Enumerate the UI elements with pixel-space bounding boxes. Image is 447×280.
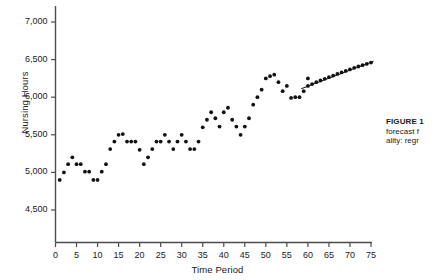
y-axis-tick-label: 4,500: [0, 204, 48, 214]
figure-container: 4,5005,0005,5006,0006,5007,000 051015202…: [0, 0, 447, 280]
chart-tick-marks: [51, 22, 371, 247]
figure-caption-title: FIGURE 1: [386, 117, 447, 127]
chart-plot-area: 4,5005,0005,5006,0006,5007,000 051015202…: [0, 0, 380, 280]
y-axis-title: Nursing Hours: [19, 43, 30, 163]
scatter-plot-svg: [0, 0, 380, 280]
figure-caption-line-2: forecast f: [386, 127, 447, 137]
y-axis-tick-label: 5,000: [0, 166, 48, 176]
x-axis-tick-label: 75: [356, 250, 386, 260]
chart-axes: [56, 6, 373, 243]
x-axis-title: Time Period: [55, 264, 380, 275]
observed-data-points: [58, 73, 310, 182]
y-axis-tick-label: 7,000: [0, 16, 48, 26]
figure-caption: FIGURE 1 forecast f ality: regr: [386, 117, 447, 146]
figure-caption-line-3: ality: regr: [386, 136, 447, 146]
